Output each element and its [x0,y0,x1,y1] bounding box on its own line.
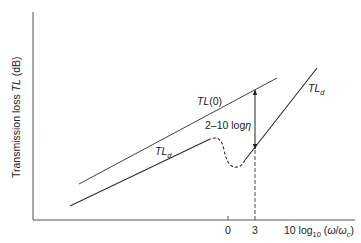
tld-curve-lower [70,140,208,206]
x-tick-label-3: 3 [252,224,258,236]
y-axis-label: Transmission loss TL (dB) [10,56,22,178]
difference-annotation: 2–10 logη [205,119,251,131]
tld-label-lower: TLd [155,145,172,160]
tld-coincidence-dip [208,138,245,167]
x-tick-label-0: 0 [225,224,231,236]
x-axis-label: 10 log10 (ω/ωc) [284,224,354,239]
tld-label-upper: TLd [308,82,325,97]
tl0-label: TL(0) [197,95,222,107]
tl0-curve [79,78,277,184]
transmission-loss-diagram: Transmission loss TL (dB) 0 3 10 log10 (… [0,0,361,243]
tld-curve-upper [245,68,317,160]
